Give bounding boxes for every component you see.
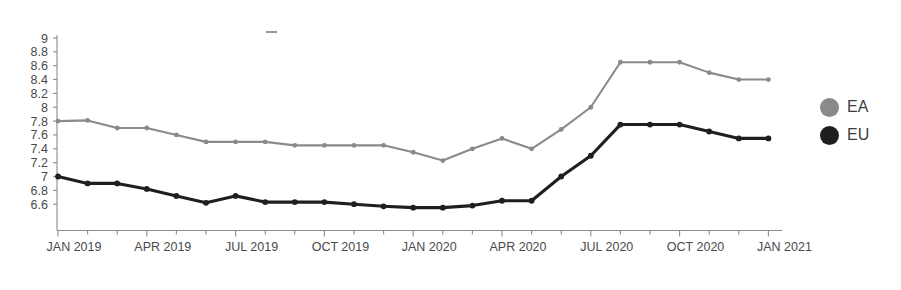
- y-tick-label: 8.8: [31, 45, 48, 59]
- data-point-eu: [262, 199, 268, 205]
- y-tick-label: 7: [41, 170, 48, 184]
- data-point-eu: [440, 205, 446, 211]
- data-point-eu: [736, 136, 742, 142]
- data-point-eu: [558, 174, 564, 180]
- data-point-ea: [470, 146, 475, 151]
- data-point-ea: [292, 143, 297, 148]
- chart-plot-area: 98.88.68.48.287.87.67.47.276.86.6 JAN 20…: [0, 0, 901, 290]
- legend-label-eu: EU: [847, 127, 869, 143]
- data-point-eu: [144, 186, 150, 192]
- x-tick-label: OCT 2020: [667, 240, 724, 254]
- data-point-eu: [292, 199, 298, 205]
- x-tick-label: JAN 2020: [402, 240, 457, 254]
- y-tick-label: 7.6: [31, 128, 48, 142]
- y-tick-label: 8.4: [31, 73, 48, 87]
- series-line-ea: [58, 62, 768, 160]
- data-point-ea: [174, 133, 179, 138]
- data-point-ea: [233, 139, 238, 144]
- data-point-eu: [766, 136, 772, 142]
- data-point-ea: [648, 60, 653, 65]
- x-tick-label: APR 2019: [134, 240, 191, 254]
- data-point-ea: [115, 126, 120, 131]
- data-point-eu: [588, 153, 594, 159]
- data-point-eu: [233, 193, 239, 199]
- x-tick-label: JAN 2019: [47, 240, 102, 254]
- data-point-ea: [204, 139, 209, 144]
- x-tick-label: JAN 2021: [757, 240, 812, 254]
- x-tick-label: JUL 2020: [580, 240, 633, 254]
- data-point-ea: [588, 105, 593, 110]
- data-point-ea: [529, 146, 534, 151]
- data-point-eu: [174, 193, 180, 199]
- x-axis-ticks: JAN 2019APR 2019JUL 2019OCT 2019JAN 2020…: [47, 231, 812, 254]
- data-point-eu: [381, 203, 387, 209]
- legend-color-swatch-eu: [820, 126, 839, 145]
- legend-item-eu[interactable]: EU: [820, 121, 895, 149]
- y-tick-label: 8.2: [31, 87, 48, 101]
- data-point-ea: [322, 143, 327, 148]
- x-tick-label: OCT 2019: [312, 240, 369, 254]
- legend-color-swatch-ea: [820, 98, 839, 117]
- y-tick-label: 7.8: [31, 115, 48, 129]
- data-point-ea: [500, 136, 505, 141]
- legend-item-ea[interactable]: EA: [820, 93, 895, 121]
- y-tick-label: 8: [41, 101, 48, 115]
- data-point-ea: [85, 118, 90, 123]
- data-point-ea: [677, 60, 682, 65]
- y-tick-label: 6.6: [31, 198, 48, 212]
- data-point-ea: [352, 143, 357, 148]
- data-point-ea: [263, 139, 268, 144]
- chart-legend: EA EU: [820, 93, 895, 149]
- series-layer: [55, 60, 771, 211]
- data-point-ea: [381, 143, 386, 148]
- y-tick-label: 9: [41, 32, 48, 46]
- data-point-ea: [559, 127, 564, 132]
- data-point-eu: [322, 199, 328, 205]
- data-point-ea: [56, 119, 61, 124]
- series-line-eu: [58, 125, 768, 208]
- data-point-eu: [706, 129, 712, 135]
- data-point-eu: [55, 174, 61, 180]
- y-tick-label: 7.2: [31, 156, 48, 170]
- data-point-eu: [203, 200, 209, 206]
- data-point-eu: [529, 198, 535, 204]
- data-point-eu: [351, 201, 357, 207]
- y-tick-label: 7.4: [31, 142, 48, 156]
- data-point-eu: [618, 122, 624, 128]
- y-axis-ticks: 98.88.68.48.287.87.67.47.276.86.6: [31, 32, 57, 212]
- data-point-ea: [766, 77, 771, 82]
- data-point-eu: [114, 181, 120, 187]
- data-point-eu: [499, 198, 505, 204]
- x-tick-label: JUL 2019: [225, 240, 278, 254]
- data-point-ea: [707, 70, 712, 75]
- data-point-ea: [440, 158, 445, 163]
- data-point-eu: [677, 122, 683, 128]
- data-point-ea: [411, 150, 416, 155]
- line-chart: 98.88.68.48.287.87.67.47.276.86.6 JAN 20…: [0, 0, 901, 290]
- data-point-eu: [85, 181, 91, 187]
- data-point-ea: [144, 126, 149, 131]
- data-point-eu: [410, 205, 416, 211]
- data-point-eu: [647, 122, 653, 128]
- y-tick-label: 8.6: [31, 59, 48, 73]
- y-tick-label: 6.8: [31, 184, 48, 198]
- data-point-eu: [470, 203, 476, 209]
- data-point-ea: [736, 77, 741, 82]
- data-point-ea: [618, 60, 623, 65]
- legend-label-ea: EA: [847, 99, 868, 115]
- x-tick-label: APR 2020: [490, 240, 547, 254]
- stray-mark: [266, 31, 277, 33]
